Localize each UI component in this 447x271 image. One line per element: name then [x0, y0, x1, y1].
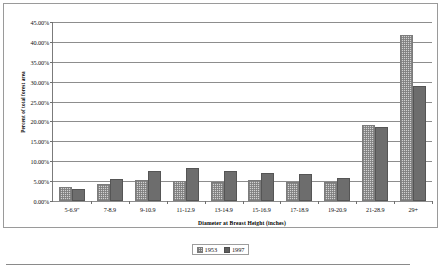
- x-tick-label: 15-16.9: [243, 206, 281, 213]
- legend-entry-1997[interactable]: 1997: [224, 246, 244, 253]
- bar-group: [394, 22, 432, 201]
- legend-box: 19531997: [192, 244, 250, 255]
- y-tick-label: 35.00%: [31, 58, 49, 65]
- y-tick-label: 20.00%: [31, 118, 49, 125]
- bars-layer: [53, 22, 432, 201]
- x-axis-title: Diameter at Breast Height (inches): [52, 220, 432, 226]
- y-tick-label: 25.00%: [31, 98, 49, 105]
- y-tick-label: 40.00%: [31, 38, 49, 45]
- bar-1953-15169: [248, 180, 261, 201]
- plot-inner: 0.00%5.00%10.00%15.00%20.00%25.00%30.00%…: [52, 22, 432, 202]
- bar-1953-17189: [286, 182, 299, 201]
- y-tick-label: 0.00%: [34, 198, 49, 205]
- legend-entry-1953[interactable]: 1953: [197, 246, 217, 253]
- legend-swatch-1997: [224, 247, 230, 253]
- bar-1997-15169: [261, 173, 274, 201]
- legend-swatch-1953: [197, 247, 203, 253]
- chart-legend: 19531997: [4, 244, 437, 255]
- y-tick-label: 5.00%: [34, 178, 49, 185]
- bar-1953-11129: [173, 181, 186, 201]
- x-tick-label: 9-10.9: [129, 206, 167, 213]
- x-tick-label: 21-28.9: [356, 206, 394, 213]
- bar-1997-13149: [224, 171, 237, 201]
- bar-1953-29: [400, 35, 413, 201]
- bar-group: [129, 22, 167, 201]
- bottom-divider: [6, 264, 410, 265]
- bar-group: [243, 22, 281, 201]
- y-axis-title: Percent of total forest area: [20, 27, 26, 177]
- bar-group: [356, 22, 394, 201]
- bar-group: [280, 22, 318, 201]
- x-tick-label: 5-6.9": [53, 206, 91, 213]
- x-tick-label: 17-18.9: [280, 206, 318, 213]
- legend-label-1953: 1953: [205, 246, 217, 253]
- bar-1997-789: [110, 179, 123, 201]
- bar-1953-21289: [362, 125, 375, 201]
- x-tick-label: 11-12.9: [167, 206, 205, 213]
- y-tick-label: 45.00%: [31, 19, 49, 26]
- bar-1997-569: [72, 189, 85, 201]
- bar-1953-569: [59, 187, 72, 201]
- y-tick-label: 10.00%: [31, 158, 49, 165]
- x-tick-label: 19-20.9: [318, 206, 356, 213]
- bar-group: [205, 22, 243, 201]
- bar-1953-19209: [324, 182, 337, 201]
- legend-label-1997: 1997: [232, 246, 244, 253]
- x-tick-label: 29+: [394, 206, 432, 213]
- bar-1997-17189: [299, 174, 312, 201]
- bar-group: [318, 22, 356, 201]
- x-tick-mark: [432, 201, 433, 204]
- y-tick-label: 15.00%: [31, 138, 49, 145]
- bar-1997-29: [413, 86, 426, 201]
- bar-1997-19209: [337, 178, 350, 201]
- bar-1953-9109: [135, 180, 148, 201]
- bar-group: [167, 22, 205, 201]
- bar-group: [91, 22, 129, 201]
- chart-frame: Percent of total forest area 0.00%5.00%1…: [3, 3, 438, 228]
- x-tick-label: 13-14.9: [205, 206, 243, 213]
- bar-group: [53, 22, 91, 201]
- x-tick-label: 7-8.9: [91, 206, 129, 213]
- y-tick-label: 30.00%: [31, 78, 49, 85]
- bar-1953-789: [97, 184, 110, 201]
- bar-1997-21289: [375, 127, 388, 201]
- plot-area: 0.00%5.00%10.00%15.00%20.00%25.00%30.00%…: [52, 22, 432, 202]
- bar-1997-11129: [186, 168, 199, 201]
- bar-1997-9109: [148, 171, 161, 201]
- bar-1953-13149: [211, 182, 224, 201]
